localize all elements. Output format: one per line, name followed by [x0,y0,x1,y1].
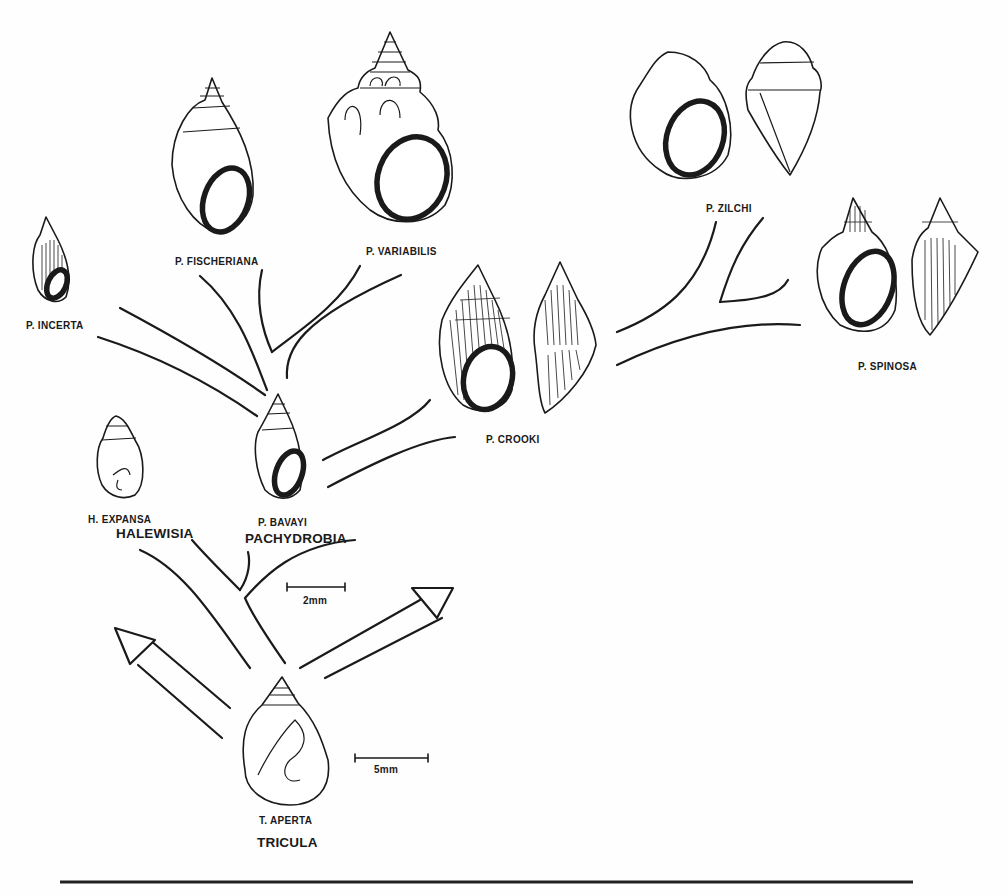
label-h-expansa: H. EXPANSA [88,514,151,525]
shell-t-aperta [243,677,328,805]
label-genus-pachydrobia: PACHYDROBIA [245,531,347,546]
label-p-crooki: P. CROOKI [486,434,540,445]
shell-p-crooki-front [440,265,520,415]
scale-bar-2mm [287,583,345,591]
shell-p-spinosa-front [817,198,903,332]
label-p-spinosa: P. SPINOSA [858,361,917,372]
shell-p-variabilis [328,32,458,229]
label-p-bavayi: P. BAVAYI [258,517,307,528]
scale-bar-5mm [355,754,428,762]
shell-p-zilchi-front [630,52,734,183]
label-genus-halewisia: HALEWISIA [116,526,194,541]
label-p-variabilis: P. VARIABILIS [366,246,437,257]
shell-p-zilchi-side [746,42,821,175]
label-p-fischeriana: P. FISCHERIANA [175,256,258,267]
phylogeny-figure [0,0,1008,896]
arrow-right-icon [412,588,453,618]
shell-p-bavayi [255,394,309,499]
shell-p-fischeriana [172,78,258,239]
shell-p-incerta [33,217,72,301]
label-scale-5mm: 5mm [374,764,398,775]
shell-p-spinosa-side [912,198,978,335]
label-scale-2mm: 2mm [303,595,327,606]
shell-p-crooki-side [534,262,596,413]
branch-lines [98,218,800,738]
label-genus-tricula: TRICULA [257,835,318,850]
arrow-left-icon [115,628,155,664]
label-p-incerta: P. INCERTA [26,320,84,331]
label-t-aperta: T. APERTA [259,815,312,826]
shell-h-expansa [97,416,143,498]
label-p-zilchi: P. ZILCHI [706,203,752,214]
